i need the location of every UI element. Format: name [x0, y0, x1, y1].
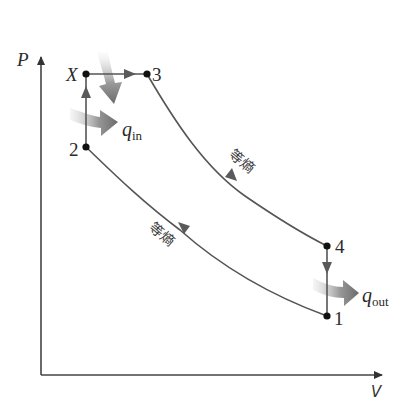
arrow-up-left-icon: [178, 222, 190, 234]
label-X: X: [65, 64, 79, 85]
y-axis-label: P: [16, 49, 29, 70]
x-axis-label: V: [371, 383, 383, 401]
heat-in-arrow-side-icon: [70, 108, 118, 136]
point-4: [323, 242, 330, 249]
pv-diagram: P V qin qout 等熵: [0, 0, 420, 407]
heat-out-arrow: qout: [313, 278, 389, 309]
point-labels: X 3 2 4 1: [65, 64, 345, 329]
heat-in-arrow-top-icon: [97, 52, 122, 104]
isentropic-compression-label: 等熵: [146, 219, 178, 249]
q-out-label: qout: [362, 284, 389, 309]
point-2: [82, 143, 89, 150]
arrow-down-icon: [322, 262, 332, 274]
arrow-up-icon: [81, 86, 91, 98]
direction-arrows: [81, 69, 332, 274]
state-points: [82, 70, 330, 319]
q-in-label: qin: [122, 118, 143, 143]
axes: P V: [16, 49, 383, 401]
label-1: 1: [334, 308, 344, 329]
process-1-to-2: [86, 147, 327, 316]
point-1: [323, 312, 330, 319]
heat-out-arrow-icon: [313, 278, 359, 306]
cycle-processes: [86, 74, 327, 316]
point-X: [82, 70, 89, 77]
label-2: 2: [69, 139, 79, 160]
label-3: 3: [152, 64, 162, 85]
label-4: 4: [335, 236, 345, 257]
arrow-down-right-icon: [225, 168, 237, 181]
point-3: [143, 70, 150, 77]
arrow-right-icon: [124, 69, 136, 79]
heat-in-arrows: qin: [70, 52, 143, 143]
